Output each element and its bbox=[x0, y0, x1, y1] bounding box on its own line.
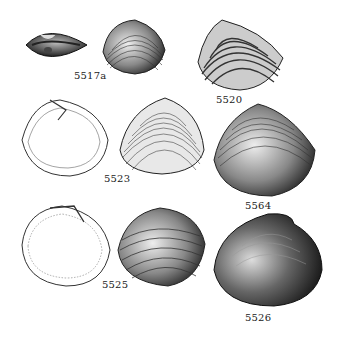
figure-label-5564: 5564 bbox=[245, 200, 271, 211]
shell-5517a-dorsal bbox=[26, 34, 87, 57]
shell-5520 bbox=[198, 20, 283, 90]
shell-5523-interior bbox=[22, 100, 108, 176]
shell-5564 bbox=[214, 104, 315, 196]
shell-5525-interior bbox=[22, 206, 110, 286]
shell-illustrations bbox=[0, 0, 339, 340]
shell-5525-exterior bbox=[118, 208, 205, 286]
shell-plate: 5517a 5520 5523 5564 5525 5526 bbox=[0, 0, 339, 340]
shell-5523-exterior bbox=[120, 98, 204, 174]
shell-5517-exterior bbox=[103, 20, 165, 74]
figure-label-5523: 5523 bbox=[104, 173, 130, 184]
figure-label-5520: 5520 bbox=[216, 94, 242, 105]
figure-label-5526: 5526 bbox=[245, 312, 271, 323]
shell-5526 bbox=[214, 214, 322, 306]
figure-label-5517a: 5517a bbox=[74, 70, 106, 81]
figure-label-5525: 5525 bbox=[102, 279, 128, 290]
